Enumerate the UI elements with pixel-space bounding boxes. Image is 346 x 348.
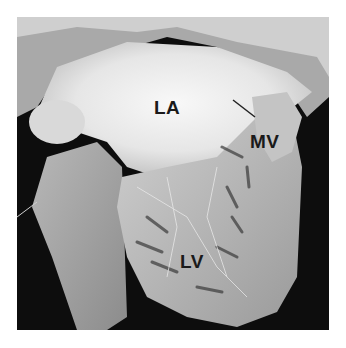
label-left-ventricle: LV — [180, 251, 204, 273]
heart-specimen-photo: LA MV LV — [17, 17, 329, 330]
label-left-atrium: LA — [154, 97, 180, 119]
specimen-illustration — [17, 17, 329, 330]
label-mitral-valve: MV — [250, 131, 280, 153]
